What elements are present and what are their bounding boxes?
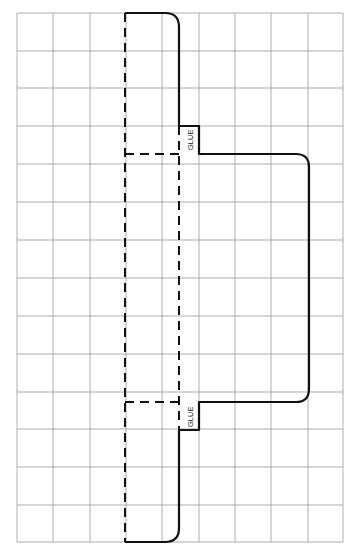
cut-outline — [125, 13, 309, 542]
glue-tab-label-upper: GLUE — [186, 130, 195, 150]
glue-tab-label-lower: GLUE — [186, 407, 195, 427]
dieline-diagram: GLUE GLUE — [0, 0, 359, 557]
